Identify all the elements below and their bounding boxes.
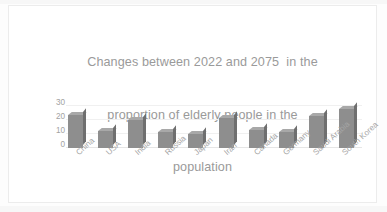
x-label-slot: India — [125, 149, 150, 201]
x-label-slot: Iran — [214, 149, 239, 201]
x-label-slot: Germany — [273, 149, 298, 201]
x-label-slot: USA — [96, 149, 121, 201]
y-tick-10: 10 — [56, 127, 65, 135]
x-label-slot: Russia — [155, 149, 180, 201]
chart-title-line-1: Changes between 2022 and 2075 in the — [31, 54, 374, 72]
bar-side-face — [234, 111, 237, 145]
bar-slot — [217, 102, 242, 148]
y-tick-30: 30 — [56, 99, 65, 107]
y-tick-20: 20 — [56, 113, 65, 121]
chart-frame: Changes between 2022 and 2075 in the pro… — [8, 5, 377, 203]
x-axis-category-labels: ChinaUSAIndiaRussiaJapanIranCanadaGerman… — [66, 149, 362, 201]
scan-artifact-top — [0, 0, 387, 4]
x-label-slot: Japan — [184, 149, 209, 201]
x-label-slot: Saudi Arabia — [303, 149, 328, 201]
slide-background: Changes between 2022 and 2075 in the pro… — [0, 0, 387, 212]
x-label-slot: Canada — [244, 149, 269, 201]
y-axis-tick-labels: 30 20 10 0 — [45, 99, 65, 151]
x-label-slot: China — [66, 149, 91, 201]
y-tick-0: 0 — [60, 141, 65, 149]
x-label-slot: South Korea — [332, 149, 357, 201]
